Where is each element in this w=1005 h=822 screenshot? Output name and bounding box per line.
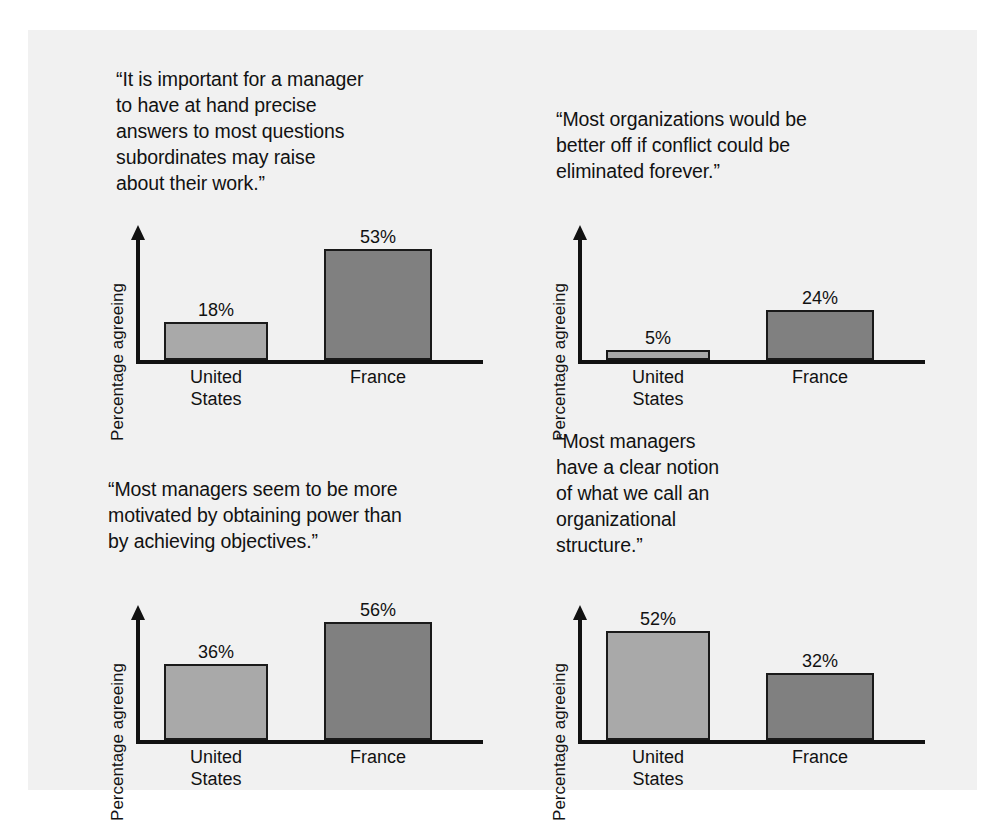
panel-quote: “Most managers seem to be more motivated… <box>108 476 468 554</box>
bar-chart: Percentage agreeing 5% United States 24%… <box>528 218 918 408</box>
chart-panel-3: “Most managers seem to be more motivated… <box>86 428 476 788</box>
category-label: United States <box>190 746 242 790</box>
bar-united-states: 52% United States <box>606 631 710 740</box>
bar-value-label: 36% <box>198 642 234 663</box>
y-axis-line <box>136 616 140 742</box>
bar-value-label: 18% <box>198 300 234 321</box>
y-axis-label: Percentage agreeing <box>108 282 128 442</box>
y-axis-label: Percentage agreeing <box>108 662 128 822</box>
bar-chart: Percentage agreeing 18% United States 53… <box>86 218 476 408</box>
chart-panel-2: “Most organizations would be better off … <box>528 48 918 408</box>
bar-france: 32% France <box>766 673 874 740</box>
y-axis-label: Percentage agreeing <box>550 662 570 822</box>
bar-united-states: 18% United States <box>164 322 268 360</box>
bar-value-label: 24% <box>802 288 838 309</box>
panel-quote: “Most managers have a clear notion of wh… <box>556 428 786 558</box>
y-axis-label: Percentage agreeing <box>550 282 570 442</box>
category-label: France <box>792 746 848 768</box>
x-axis-line <box>578 740 925 744</box>
bar-value-label: 52% <box>640 609 676 630</box>
x-axis-line <box>136 360 483 364</box>
y-axis-line <box>578 616 582 742</box>
category-label: France <box>792 366 848 388</box>
panel-quote: “It is important for a manager to have a… <box>116 66 446 196</box>
panel-quote: “Most organizations would be better off … <box>556 106 866 184</box>
category-label: United States <box>632 366 684 410</box>
bar-france: 53% France <box>324 249 432 360</box>
bar-value-label: 32% <box>802 651 838 672</box>
chart-panel-1: “It is important for a manager to have a… <box>86 48 476 408</box>
bar-chart: Percentage agreeing 52% United States 32… <box>528 598 918 788</box>
category-label: United States <box>190 366 242 410</box>
y-axis-line <box>578 236 582 362</box>
category-label: France <box>350 366 406 388</box>
x-axis-line <box>136 740 483 744</box>
bar-chart: Percentage agreeing 36% United States 56… <box>86 598 476 788</box>
bar-france: 24% France <box>766 310 874 360</box>
bar-united-states: 5% United States <box>606 350 710 361</box>
category-label: France <box>350 746 406 768</box>
bar-united-states: 36% United States <box>164 664 268 740</box>
bar-france: 56% France <box>324 622 432 740</box>
bar-value-label: 56% <box>360 600 396 621</box>
category-label: United States <box>632 746 684 790</box>
scanned-page: “It is important for a manager to have a… <box>28 30 977 790</box>
x-axis-line <box>578 360 925 364</box>
bar-value-label: 5% <box>645 328 671 349</box>
y-axis-line <box>136 236 140 362</box>
chart-panel-4: “Most managers have a clear notion of wh… <box>528 428 918 788</box>
bar-value-label: 53% <box>360 227 396 248</box>
